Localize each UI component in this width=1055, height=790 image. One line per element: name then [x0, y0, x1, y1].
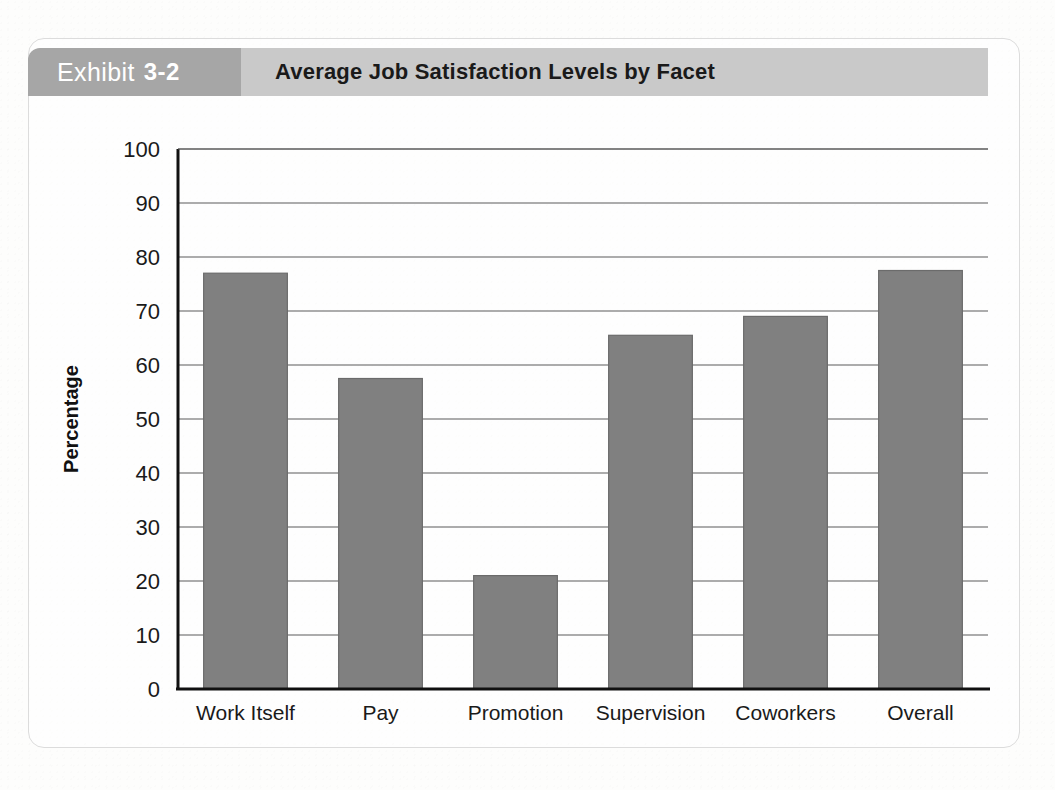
exhibit-badge: Exhibit 3-2 [28, 48, 241, 96]
exhibit-header: Exhibit 3-2 Average Job Satisfaction Lev… [28, 48, 988, 96]
exhibit-badge-number: 3-2 [144, 58, 180, 86]
exhibit-title: Average Job Satisfaction Levels by Facet [275, 59, 715, 85]
exhibit-badge-word: Exhibit [57, 58, 135, 87]
exhibit-title-strip: Average Job Satisfaction Levels by Facet [241, 48, 988, 96]
exhibit-card [28, 38, 1020, 748]
